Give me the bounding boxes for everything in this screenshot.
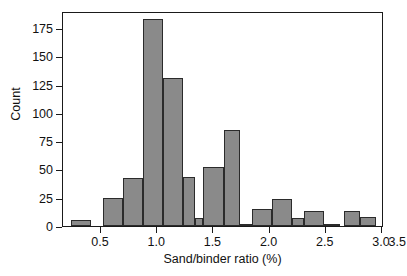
x-ticklabel-0p5: 0.5 (77, 236, 123, 249)
histogram-bar (183, 177, 195, 226)
y-ticklabel-150: 150 (13, 51, 53, 64)
y-ticklabel-175: 175 (13, 23, 53, 36)
x-ticklabel-1p0: 1.0 (133, 236, 179, 249)
histogram-bar (203, 167, 223, 226)
x-tick-0p5 (100, 227, 101, 233)
histogram-bar (103, 198, 123, 226)
histogram-bar (123, 178, 143, 226)
x-tick-1p5 (212, 227, 213, 233)
y-axis-title: Count (9, 64, 23, 144)
histogram-bars (63, 13, 382, 226)
y-ticklabel-50: 50 (13, 164, 53, 177)
histogram-bar (224, 130, 240, 226)
histogram-bar (272, 199, 292, 226)
histogram-bar (143, 19, 163, 226)
x-tick-2p0 (269, 227, 270, 233)
x-axis-title: Sand/binder ratio (%) (62, 252, 383, 266)
histogram-bar (344, 211, 360, 226)
histogram-bar (163, 78, 183, 226)
x-tick-3p0 (381, 227, 382, 233)
x-ticklabel-2p5: 2.5 (302, 236, 348, 249)
histogram-bar (252, 209, 272, 226)
y-ticklabel-0: 0 (13, 221, 53, 234)
histogram-bar (195, 218, 203, 226)
y-tick-0 (56, 227, 62, 228)
histogram-figure: 0 25 50 75 100 125 150 175 0.5 1.0 1.5 2… (0, 0, 407, 276)
histogram-bar (71, 220, 91, 226)
x-tick-2p5 (325, 227, 326, 233)
histogram-bar (240, 224, 252, 226)
plot-area (62, 12, 383, 227)
histogram-bar (360, 217, 376, 226)
x-ticklabel-1p5: 1.5 (189, 236, 235, 249)
x-tick-1p0 (156, 227, 157, 233)
y-ticklabel-25: 25 (13, 193, 53, 206)
histogram-bar (304, 211, 324, 226)
x-ticklabel-2p0: 2.0 (246, 236, 292, 249)
histogram-bar (324, 224, 340, 226)
x-ticklabel-3p5: 3.5 (360, 236, 406, 249)
histogram-bar (292, 218, 304, 226)
